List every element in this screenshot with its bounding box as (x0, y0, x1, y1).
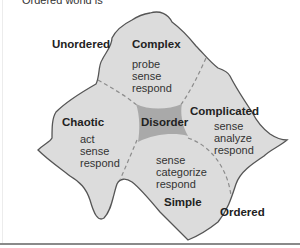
chaotic-action: sense (80, 145, 120, 157)
chaotic-title: Chaotic (62, 116, 104, 128)
chaotic-actions: act sense respond (80, 133, 120, 169)
bottom-rule (0, 243, 300, 245)
complicated-action: analyze (214, 132, 254, 144)
complex-action: probe (132, 58, 172, 70)
unordered-label: Unordered (52, 38, 110, 50)
complicated-actions: sense analyze respond (214, 120, 254, 156)
chaotic-action: respond (80, 157, 120, 169)
complicated-action: respond (214, 144, 254, 156)
complicated-action: sense (214, 120, 254, 132)
complicated-title: Complicated (190, 105, 259, 117)
simple-title: Simple (164, 196, 202, 208)
simple-actions: sense categorize respond (156, 154, 207, 190)
simple-action: respond (156, 178, 207, 190)
disorder-title: Disorder (141, 116, 188, 128)
complex-actions: probe sense respond (132, 58, 172, 94)
complex-action: sense (132, 70, 172, 82)
simple-action: sense (156, 154, 207, 166)
complex-title: Complex (132, 38, 181, 50)
ordered-label: Ordered (220, 206, 265, 218)
chaotic-action: act (80, 133, 120, 145)
complex-action: respond (132, 82, 172, 94)
simple-action: categorize (156, 166, 207, 178)
